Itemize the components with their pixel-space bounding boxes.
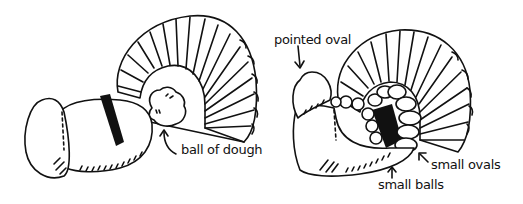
arrow-small-ovals [420, 154, 428, 162]
label-ball-of-dough: ball of dough [181, 143, 262, 156]
body-shape-left [60, 94, 152, 172]
arrow-ball-of-dough [164, 132, 176, 154]
illustration-canvas: ball of dough pointed oval small ovals s… [0, 0, 523, 204]
head-oval-left [25, 99, 69, 178]
label-small-ovals: small ovals [431, 158, 500, 171]
arrow-pointed-oval [298, 46, 300, 66]
step-1-drawing [0, 0, 523, 204]
label-small-balls: small balls [378, 178, 444, 191]
label-pointed-oval: pointed oval [274, 33, 351, 46]
ball-of-dough [149, 87, 185, 126]
